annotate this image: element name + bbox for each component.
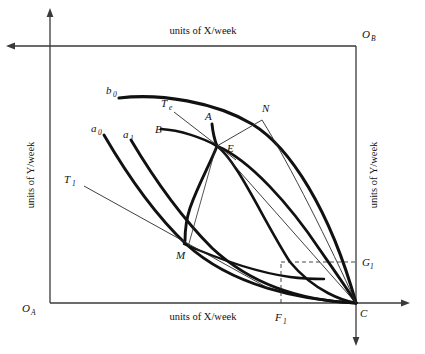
point-label-G1: G 1 (362, 256, 374, 271)
curve-Te-sub: e (169, 103, 173, 112)
curve-a0-letter: a (91, 122, 97, 134)
point-label-B: B (155, 123, 162, 135)
point-label-F1: F 1 (274, 311, 287, 326)
curve-label-b0: b 0 (106, 84, 117, 99)
point-F-sub: 1 (283, 317, 287, 326)
curve-M-tail (184, 244, 324, 279)
line-E-to-C (217, 146, 356, 303)
curve-label-a0: a 0 (91, 122, 102, 137)
point-label-E: E (226, 142, 234, 154)
curve-b0-letter: b (106, 84, 112, 96)
point-G-sub: 1 (370, 262, 374, 271)
origin-OB-letter: O (362, 28, 370, 40)
curve-a1-sub: 1 (130, 134, 134, 143)
point-label-A: A (204, 110, 212, 122)
point-label-C: C (360, 307, 368, 319)
point-label-M: M (175, 249, 186, 261)
line-T1 (84, 186, 268, 288)
point-label-N: N (261, 102, 270, 114)
curve-T1-sub: 1 (72, 179, 76, 188)
leader-B-to-curve (188, 147, 216, 247)
curve-a0-sub: 0 (98, 128, 102, 137)
origin-label-OB: O B (362, 28, 376, 43)
axis-title-top-x: units of X/week (169, 25, 237, 36)
point-F-letter: F (274, 311, 282, 323)
curve-label-a1: a 1 (123, 128, 134, 143)
line-E-to-N (217, 120, 262, 146)
origin-OA-letter: O (22, 302, 30, 314)
point-G-letter: G (362, 256, 370, 268)
curve-B (161, 129, 356, 303)
origin-OB-sub: B (371, 34, 376, 43)
curve-Te-letter: T (161, 97, 168, 109)
origin-label-OA: O A (22, 302, 36, 317)
curve-a1-letter: a (123, 128, 129, 140)
origin-OA-sub: A (30, 308, 36, 317)
axis-title-right-y: units of Y/week (368, 141, 379, 208)
curve-b0-sub: 0 (113, 90, 117, 99)
curve-T1-letter: T (64, 173, 71, 185)
axis-title-bottom-x: units of X/week (169, 311, 237, 322)
edgeworth-box-figure: units of X/week units of X/week units of… (0, 0, 425, 354)
curve-label-T1: T 1 (64, 173, 76, 188)
axis-title-left-y: units of Y/week (25, 141, 36, 208)
